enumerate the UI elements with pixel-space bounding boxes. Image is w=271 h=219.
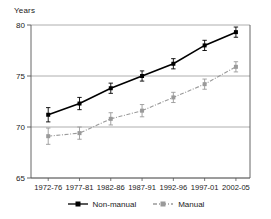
data-point-0-5[interactable] xyxy=(203,43,207,47)
x-tick-label-4: 1992-96 xyxy=(159,183,187,192)
data-point-0-4[interactable] xyxy=(171,62,175,66)
x-tick-label-5: 1997-01 xyxy=(191,183,219,192)
y-tick-label-75: 75 xyxy=(16,72,25,81)
data-point-0-1[interactable] xyxy=(77,102,81,106)
data-point-0-3[interactable] xyxy=(140,74,144,78)
chart-plot-area: 657075801972-761977-811982-861987-911992… xyxy=(0,0,271,199)
chart-legend: Non-manual Manual xyxy=(0,199,271,209)
y-tick-label-70: 70 xyxy=(16,123,25,132)
x-tick-label-6: 2002-05 xyxy=(222,183,250,192)
data-point-1-2[interactable] xyxy=(109,117,113,121)
y-tick-label-80: 80 xyxy=(16,21,25,30)
x-tick-label-0: 1972-76 xyxy=(34,183,62,192)
x-tick-label-2: 1982-86 xyxy=(97,183,125,192)
data-point-0-6[interactable] xyxy=(234,30,238,34)
data-point-1-4[interactable] xyxy=(171,95,175,99)
legend-swatch-non-manual xyxy=(67,199,89,209)
legend-swatch-manual xyxy=(152,199,174,209)
legend-item-manual[interactable]: Manual xyxy=(152,199,204,209)
x-tick-label-3: 1987-91 xyxy=(128,183,156,192)
data-point-1-1[interactable] xyxy=(77,131,81,135)
data-point-1-3[interactable] xyxy=(140,109,144,113)
y-tick-label-65: 65 xyxy=(16,174,25,183)
data-point-1-0[interactable] xyxy=(46,134,50,138)
x-tick-label-1: 1977-81 xyxy=(66,183,94,192)
data-point-1-6[interactable] xyxy=(234,65,238,69)
chart-container: Years 657075801972-761977-811982-861987-… xyxy=(0,0,271,219)
data-point-0-0[interactable] xyxy=(46,113,50,117)
data-point-0-2[interactable] xyxy=(109,86,113,90)
legend-item-non-manual[interactable]: Non-manual xyxy=(67,199,137,209)
data-point-1-5[interactable] xyxy=(203,82,207,86)
legend-label-manual: Manual xyxy=(178,200,204,209)
legend-label-non-manual: Non-manual xyxy=(93,200,137,209)
